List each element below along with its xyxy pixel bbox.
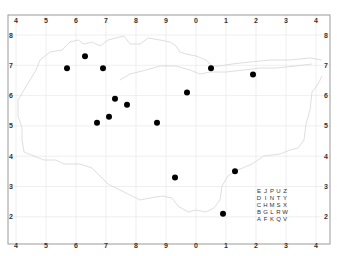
x-tick-label-bottom: 5 bbox=[44, 242, 48, 249]
x-tick-label-top: 5 bbox=[44, 17, 48, 24]
letter-grid-cell: Q bbox=[276, 216, 281, 222]
x-tick-label-bottom: 1 bbox=[224, 242, 228, 249]
y-tick-label-left: 5 bbox=[9, 122, 13, 129]
y-axis-left-labels: 8765432 bbox=[9, 32, 13, 221]
map-points bbox=[64, 53, 256, 217]
x-tick-label-bottom: 9 bbox=[164, 242, 168, 249]
y-tick-label-right: 2 bbox=[324, 213, 328, 220]
letter-grid-cell: B bbox=[257, 209, 261, 215]
map-point[interactable] bbox=[124, 102, 130, 108]
x-tick-label-top: 9 bbox=[164, 17, 168, 24]
letter-grid-cell: L bbox=[270, 209, 274, 215]
y-axis-right-labels: 8765432 bbox=[324, 32, 328, 221]
x-tick-label-top: 0 bbox=[194, 17, 198, 24]
x-tick-label-top: 2 bbox=[254, 17, 258, 24]
letter-grid-cell: Z bbox=[283, 188, 287, 194]
map-point[interactable] bbox=[232, 168, 238, 174]
letter-grid-cell: J bbox=[264, 188, 267, 194]
letter-grid-cell: R bbox=[276, 209, 281, 215]
x-axis-top-labels: 45678901234 bbox=[14, 17, 318, 24]
letter-grid-cell: H bbox=[263, 202, 267, 208]
coastline-outline bbox=[18, 36, 322, 212]
x-tick-label-top: 7 bbox=[104, 17, 108, 24]
letter-grid-cell: M bbox=[270, 202, 275, 208]
x-tick-label-top: 4 bbox=[14, 17, 18, 24]
letter-grid-cell: C bbox=[257, 202, 262, 208]
map-point[interactable] bbox=[94, 120, 100, 126]
x-tick-label-bottom: 6 bbox=[74, 242, 78, 249]
y-tick-label-left: 4 bbox=[9, 153, 13, 160]
x-tick-label-bottom: 3 bbox=[284, 242, 288, 249]
map-point[interactable] bbox=[106, 114, 112, 120]
letter-grid-cell: F bbox=[264, 216, 268, 222]
x-tick-label-bottom: 4 bbox=[314, 242, 318, 249]
x-tick-label-top: 1 bbox=[224, 17, 228, 24]
map-point[interactable] bbox=[154, 120, 160, 126]
y-tick-label-left: 8 bbox=[9, 32, 13, 39]
map-point[interactable] bbox=[112, 96, 118, 102]
x-tick-label-top: 3 bbox=[284, 17, 288, 24]
x-tick-label-bottom: 7 bbox=[104, 242, 108, 249]
map-point[interactable] bbox=[250, 71, 256, 77]
y-tick-label-left: 6 bbox=[9, 92, 13, 99]
y-tick-label-right: 7 bbox=[324, 62, 328, 69]
y-tick-label-right: 3 bbox=[324, 183, 328, 190]
map-canvas: 45678901234 45678901234 8765432 8765432 … bbox=[0, 0, 337, 256]
map-point[interactable] bbox=[172, 174, 178, 180]
letter-grid-cell: D bbox=[257, 195, 262, 201]
map-point[interactable] bbox=[208, 65, 214, 71]
x-tick-label-bottom: 8 bbox=[134, 242, 138, 249]
letter-grid-cell: A bbox=[257, 216, 261, 222]
y-tick-label-left: 2 bbox=[9, 213, 13, 220]
y-tick-label-right: 6 bbox=[324, 92, 328, 99]
x-tick-label-top: 6 bbox=[74, 17, 78, 24]
map-point[interactable] bbox=[220, 211, 226, 217]
letter-grid-cell: P bbox=[270, 188, 274, 194]
letter-grid-cell: W bbox=[282, 209, 288, 215]
letter-grid-cell: K bbox=[270, 216, 274, 222]
letter-grid-cell: I bbox=[265, 195, 267, 201]
letter-grid-cell: Y bbox=[283, 195, 287, 201]
letter-grid-cell: E bbox=[257, 188, 261, 194]
map-point[interactable] bbox=[184, 90, 190, 96]
letter-grid-cell: N bbox=[270, 195, 274, 201]
map-point[interactable] bbox=[64, 65, 70, 71]
x-tick-label-bottom: 0 bbox=[194, 242, 198, 249]
letter-grid-cell: U bbox=[276, 188, 280, 194]
x-tick-label-top: 8 bbox=[134, 17, 138, 24]
letter-grid-cell: T bbox=[277, 195, 281, 201]
y-tick-label-left: 7 bbox=[9, 62, 13, 69]
map-point[interactable] bbox=[82, 53, 88, 59]
letter-grid-cell: X bbox=[283, 202, 287, 208]
letter-grid-cell: V bbox=[283, 216, 287, 222]
map-point[interactable] bbox=[100, 65, 106, 71]
x-tick-label-bottom: 2 bbox=[254, 242, 258, 249]
x-tick-label-bottom: 4 bbox=[14, 242, 18, 249]
coastline bbox=[18, 36, 322, 212]
y-tick-label-left: 3 bbox=[9, 183, 13, 190]
y-tick-label-right: 5 bbox=[324, 122, 328, 129]
letter-grid-cell: S bbox=[276, 202, 280, 208]
y-tick-label-right: 8 bbox=[324, 32, 328, 39]
x-tick-label-top: 4 bbox=[314, 17, 318, 24]
y-tick-label-right: 4 bbox=[324, 153, 328, 160]
letter-grid-cell: G bbox=[263, 209, 268, 215]
x-axis-bottom-labels: 45678901234 bbox=[14, 242, 318, 249]
